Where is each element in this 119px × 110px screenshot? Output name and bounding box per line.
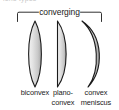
biconvex-lens [18,20,52,88]
plano-convex-lens-icon [53,20,75,88]
caption-convex-meniscus-line1: convex [85,88,108,97]
caption-plano-convex-line1: plano- [53,88,73,97]
biconvex-lens-icon [18,20,52,88]
lens-captions-row: biconvex plano- convex convex meniscus [0,88,119,110]
clipped-title-fragment: lens types [3,0,37,2]
converging-label: converging [0,7,119,17]
convex-meniscus-lens [78,20,108,88]
plano-convex-lens [53,20,75,88]
caption-convex-meniscus-line2: meniscus [73,98,119,108]
caption-convex-meniscus: convex meniscus [73,88,119,107]
lens-shapes-row [0,20,119,88]
convex-meniscus-lens-icon [78,20,108,88]
converging-lens-diagram: lens types converging [0,0,119,110]
